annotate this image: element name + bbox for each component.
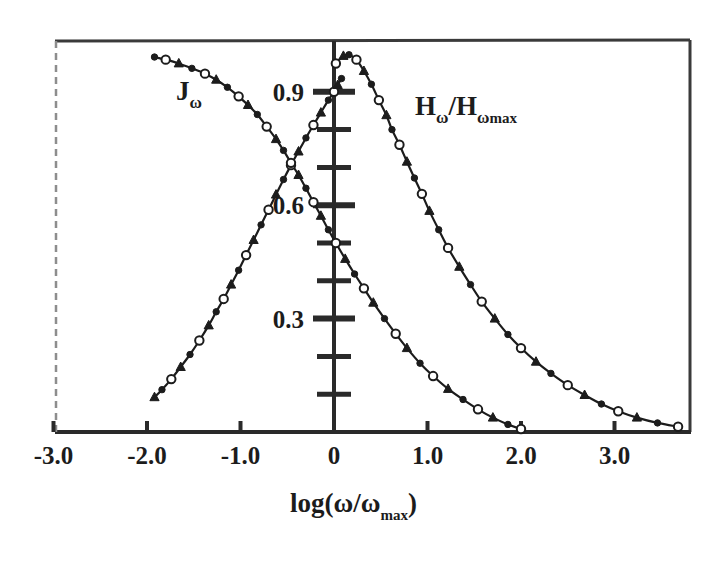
data-point-open (287, 159, 295, 167)
data-point-filled (189, 65, 195, 71)
data-point-filled (254, 111, 260, 117)
data-point-filled (325, 227, 331, 233)
data-point-filled (505, 331, 511, 337)
h-label-main: H (415, 91, 436, 121)
data-point-open (392, 330, 400, 338)
x-tick-label-3: 0 (328, 442, 341, 469)
data-point-filled (654, 420, 660, 426)
x-tick-label-6: 3.0 (599, 442, 630, 469)
data-point-open (219, 295, 227, 303)
h-label-subscript: ω (436, 108, 448, 127)
x-tick-label-1: -2.0 (127, 442, 167, 469)
data-point-filled (159, 386, 165, 392)
x-tick-label-0: -3.0 (34, 442, 74, 469)
axis-title-suffix: ) (408, 488, 417, 518)
axis-title-subscript: max (381, 507, 409, 523)
data-point-filled (467, 281, 473, 287)
data-point-open (517, 344, 525, 352)
data-point-open (167, 375, 175, 383)
h-label-subscript-2: ω (477, 108, 489, 127)
scientific-plot: -3.0-2.0-1.001.02.03.0 0.30.60.9 Jω Hω/H… (0, 0, 716, 562)
data-point-filled (325, 97, 331, 103)
j-label-subscript: ω (190, 93, 202, 112)
axis-title-omega-num: ω (334, 488, 354, 518)
data-point-filled (338, 75, 344, 81)
data-point-filled (303, 135, 309, 141)
data-point-filled (505, 421, 511, 427)
data-point-filled (280, 147, 286, 153)
j-label-main: J (176, 76, 190, 106)
data-point-open (360, 284, 368, 292)
data-point-open (242, 251, 250, 259)
data-point-open (309, 198, 317, 206)
data-point-open (674, 423, 682, 431)
data-point-open (234, 92, 242, 100)
data-point-open (162, 55, 170, 63)
data-point-open (474, 405, 482, 413)
y-tick-label-2: 0.3 (273, 306, 304, 333)
data-point-filled (280, 176, 286, 182)
data-point-open (564, 381, 572, 389)
data-point-open (262, 122, 270, 130)
data-point-open (264, 206, 272, 214)
data-point-open (418, 190, 426, 198)
data-point-filled (548, 370, 554, 376)
data-point-filled (235, 267, 241, 273)
h-label-subscript-max: max (489, 110, 517, 126)
data-point-filled (351, 271, 357, 277)
frame-top (55, 40, 690, 41)
data-point-filled (187, 351, 193, 357)
data-point-filled (258, 222, 264, 228)
data-point-open (375, 96, 383, 104)
data-point-open (444, 244, 452, 252)
data-point-filled (436, 227, 442, 233)
x-tick-label-4: 1.0 (412, 442, 443, 469)
data-point-filled (368, 81, 374, 87)
data-point-filled (411, 175, 417, 181)
data-point-filled (151, 54, 157, 60)
data-point-filled (417, 360, 423, 366)
data-point-open (478, 297, 486, 305)
figure-container: -3.0-2.0-1.001.02.03.0 0.30.60.9 Jω Hω/H… (0, 0, 716, 562)
data-point-open (332, 59, 340, 67)
data-point-filled (346, 52, 352, 58)
x-tick-label-2: -1.0 (221, 442, 261, 469)
data-point-filled (381, 315, 387, 321)
data-point-filled (224, 84, 230, 90)
axis-title-prefix: log( (290, 488, 334, 518)
data-point-open (395, 141, 403, 149)
data-point-filled (303, 185, 309, 191)
x-tick-label-5: 2.0 (505, 442, 536, 469)
data-point-open (309, 121, 317, 129)
data-point-open (429, 372, 437, 380)
y-tick-label-8: 0.9 (273, 79, 304, 106)
data-point-open (201, 69, 209, 77)
axis-title-omega-den: ω (361, 488, 381, 518)
data-point-open (352, 55, 360, 63)
data-point-filled (598, 401, 604, 407)
data-point-filled (389, 126, 395, 132)
data-point-filled (213, 309, 219, 315)
data-point-open (517, 425, 525, 433)
data-point-open (614, 407, 622, 415)
h-label-slash: /H (447, 91, 477, 121)
data-point-open (195, 336, 203, 344)
data-point-open (332, 239, 340, 247)
data-point-filled (460, 396, 466, 402)
